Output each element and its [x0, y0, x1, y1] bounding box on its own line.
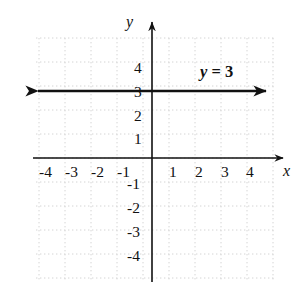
y-tick-label: 4 [134, 60, 142, 76]
graph-canvas [0, 0, 308, 292]
x-tick-label: 3 [221, 164, 229, 180]
x-axis-label: x [283, 163, 290, 179]
y-tick-label: -4 [127, 248, 140, 264]
equation-label: y = 3 [200, 64, 233, 81]
grid-lines [36, 38, 276, 280]
x-tick-label: -2 [91, 164, 104, 180]
x-tick-label: -1 [117, 164, 130, 180]
y-tick-label: 2 [134, 108, 142, 124]
y-tick-label: -2 [127, 200, 140, 216]
y-tick-label: -3 [127, 224, 140, 240]
x-tick-label: -3 [65, 164, 78, 180]
y-tick-label: 1 [134, 131, 142, 147]
y-tick-label: 3 [134, 84, 142, 100]
coordinate-plane-figure: y x y = 3 4 3 2 1 -1 -2 -3 -4 -4 -3 -2 -… [0, 0, 308, 292]
x-tick-label: 4 [246, 164, 254, 180]
x-tick-label: 1 [169, 164, 177, 180]
x-tick-label: -4 [39, 164, 52, 180]
equation-value: 3 [225, 62, 233, 81]
equation-operator-glyph: = [211, 62, 220, 81]
y-axis-label: y [126, 14, 133, 30]
x-tick-label: 2 [195, 164, 203, 180]
